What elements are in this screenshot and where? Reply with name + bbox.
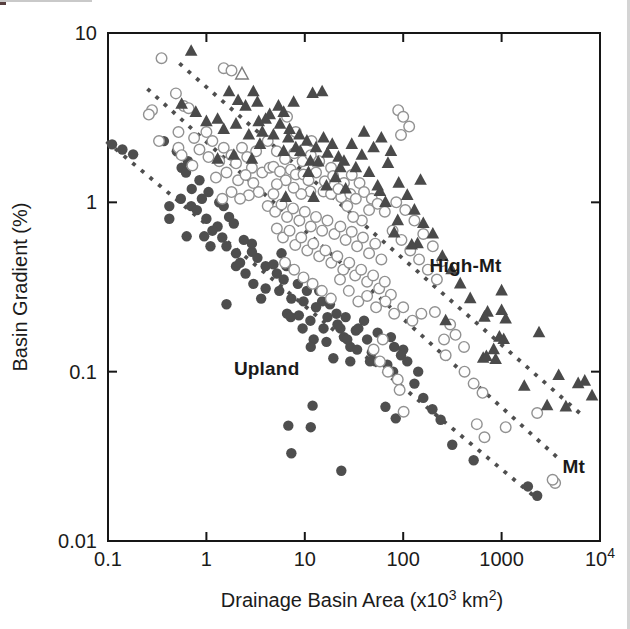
y-tick-label: 10: [75, 22, 97, 44]
x-tick-label: 104: [585, 545, 615, 570]
label-high-mt: High-Mt: [429, 255, 501, 277]
y-tick-label: 0.1: [69, 361, 97, 383]
label-mt: Mt: [562, 456, 585, 478]
scan-edge-top: [0, 0, 92, 2]
x-tick-label: 0.1: [94, 548, 122, 570]
y-axis-title: Basin Gradient (%): [9, 203, 31, 372]
series-high-mt: [175, 44, 598, 411]
x-tick-label: 1000: [479, 548, 524, 570]
x-tick-label: 1: [201, 548, 212, 570]
y-axis: 1010.10.01: [58, 22, 600, 552]
label-upland: Upland: [234, 358, 300, 380]
x-tick-label: 10: [294, 548, 316, 570]
x-axis-title: Drainage Basin Area (x103​ km2​): [221, 587, 503, 611]
x-tick-label: 100: [387, 548, 420, 570]
series-open-triangle-outlier: [236, 67, 249, 79]
y-tick-label: 0.01: [58, 530, 97, 552]
basin-gradient-scatter-plot: 0.111010010001041010.10.01Drainage Basin…: [0, 0, 630, 629]
y-tick-label: 1: [86, 191, 97, 213]
figure: 0.111010010001041010.10.01Drainage Basin…: [0, 0, 630, 629]
